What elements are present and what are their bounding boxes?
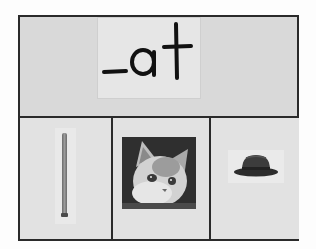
handwritten-word-icon bbox=[98, 18, 202, 100]
picture-cell-hat: hat bbox=[211, 118, 299, 239]
bat-picture bbox=[55, 128, 76, 224]
picture-cell-bat: bat bbox=[20, 118, 111, 239]
bat-knob bbox=[61, 213, 68, 217]
hat-icon bbox=[228, 150, 284, 183]
cat-icon bbox=[122, 137, 196, 209]
picture-cell-cat: cat bbox=[113, 118, 209, 239]
bat-icon bbox=[62, 133, 67, 215]
word-family-card: _at bbox=[97, 17, 201, 99]
hat-picture bbox=[228, 150, 284, 183]
word-family-board: _at bat cat bbox=[18, 15, 299, 241]
cat-picture bbox=[122, 137, 196, 209]
